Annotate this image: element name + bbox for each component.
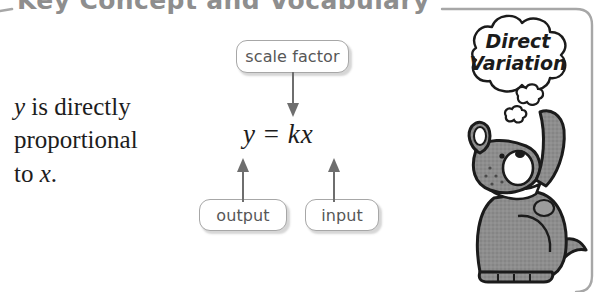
mascot-illustration: Direct Variation (440, 4, 592, 290)
page-title: Key Concept and Vocabulary (17, 0, 430, 13)
key-concept-callout: Key Concept and Vocabulary y is directly… (0, 0, 602, 292)
equation-variable: x (301, 119, 314, 149)
statement-period: . (51, 160, 57, 187)
statement-line3: to (14, 160, 40, 187)
label-output: output (199, 199, 287, 231)
thought-bubble-line1: Direct (486, 30, 552, 52)
equation-coefficient: k (288, 119, 301, 149)
arrow-scale-factor-to-k (280, 72, 306, 118)
label-input: input (305, 199, 379, 231)
equation-operator: = (256, 119, 288, 149)
arrow-input-to-x (323, 158, 345, 202)
dog-figure (469, 111, 586, 282)
statement-variable-y: y (14, 93, 25, 120)
equation: y = kx (243, 119, 314, 150)
statement-line1: is directly (25, 93, 131, 120)
arrow-output-to-y (232, 158, 254, 202)
statement-text: y is directly proportional to x. (14, 90, 199, 190)
thought-bubble-line2: Variation (470, 52, 567, 74)
label-scale-factor: scale factor (236, 40, 349, 73)
equation-lhs: y (243, 119, 256, 149)
statement-line2: proportional (14, 126, 138, 153)
statement-variable-x: x (40, 160, 51, 187)
